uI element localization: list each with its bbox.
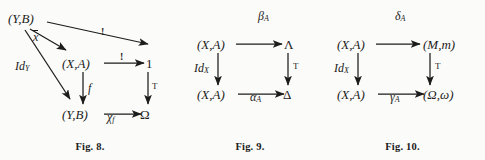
arrow-yb-to-one [47, 22, 148, 44]
figure-9-caption: Fig. 9. [180, 141, 320, 152]
identity-y-text: Id [15, 59, 25, 73]
label-beta-a: βA [258, 10, 269, 23]
label-delta-a: δA [395, 10, 405, 23]
label-identity-x-fig10: IdX [334, 62, 349, 75]
identity-x-text-fig10: Id [334, 61, 344, 75]
figure-8-caption: Fig. 8. [0, 141, 180, 152]
label-identity-y: IdY [15, 60, 29, 73]
figure-9-arrows [180, 0, 320, 160]
identity-x-subscript-fig10: X [344, 66, 349, 75]
beta-subscript: A [264, 14, 269, 23]
figure-10: δA (X,A) (M,m) IdX T (X,A) γA (Ω,ω) Fig.… [320, 0, 485, 160]
node-bottom-left-yb: (Y,B) [62, 108, 88, 121]
identity-x-text-fig9: Id [194, 61, 204, 75]
x-bar-glyph: x [33, 31, 38, 43]
figure-8: (Y,B) x IdY ! (X,A) ! 1 f T (Y,B) χf Ω F… [0, 0, 180, 160]
gamma-subscript: A [395, 95, 400, 104]
label-bang-long: ! [101, 27, 104, 37]
figure-10-caption: Fig. 10. [320, 141, 485, 152]
node-delta: Δ [283, 88, 291, 101]
label-gamma-a: γA [390, 91, 400, 104]
node-bottom-left-xa-fig10: (X,A) [337, 88, 365, 101]
figure-10-arrows [320, 0, 485, 160]
node-mm: (M,m) [423, 38, 455, 51]
node-lambda: Λ [284, 38, 293, 51]
node-bottom-left-xa-fig9: (X,A) [197, 88, 225, 101]
node-terminal-one: 1 [146, 57, 153, 70]
label-alpha-a: αA [250, 91, 261, 104]
delta-subscript: A [401, 14, 406, 23]
alpha-subscript: A [256, 95, 261, 104]
node-top-left-yb: (Y,B) [8, 12, 34, 25]
node-top-left-xa-fig10: (X,A) [337, 38, 365, 51]
identity-y-subscript: Y [25, 64, 29, 73]
figure-9: βA (X,A) Λ IdX T (X,A) αA Δ Fig. 9. [180, 0, 320, 160]
chi-subscript: f [112, 115, 114, 124]
node-omega-omega: (Ω,ω) [423, 88, 454, 101]
identity-x-subscript-fig9: X [204, 66, 209, 75]
node-mid-left-xa: (X,A) [62, 57, 90, 70]
label-f: f [88, 82, 91, 94]
label-chi-f: χf [107, 111, 115, 124]
label-truth-fig10: T [435, 62, 441, 71]
node-omega-fig8: Ω [140, 108, 150, 121]
node-top-left-xa-fig9: (X,A) [197, 38, 225, 51]
label-identity-x-fig9: IdX [194, 62, 209, 75]
label-truth-fig8: T [152, 82, 158, 91]
label-x-bar: x [33, 31, 38, 43]
label-truth-fig9: T [293, 62, 299, 71]
label-bang-mid: ! [120, 52, 123, 62]
